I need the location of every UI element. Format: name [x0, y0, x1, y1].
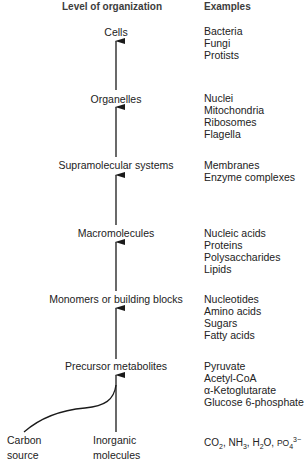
- example-item: Glucose 6-phosphate: [204, 396, 304, 408]
- example-item: Fungi: [204, 37, 243, 49]
- inorganic-examples: CO2, NH3, H2O, PO43−: [204, 437, 301, 449]
- example-item: Enzyme complexes: [204, 171, 295, 183]
- h2o: H2O: [252, 437, 271, 448]
- example-item: Proteins: [204, 239, 280, 251]
- level-organelles: Organelles: [91, 93, 142, 105]
- example-item: Mitochondria: [204, 104, 264, 116]
- level-cells: Cells: [104, 26, 127, 38]
- example-item: Nuclei: [204, 92, 264, 104]
- example-item: Acetyl-CoA: [204, 372, 304, 384]
- example-item: Bacteria: [204, 25, 243, 37]
- examples-cells: Bacteria Fungi Protists: [204, 25, 243, 61]
- example-item: Nucleic acids: [204, 227, 280, 239]
- example-item: Ribosomes: [204, 116, 264, 128]
- example-item: Lipids: [204, 263, 280, 275]
- carbon-source-curve: [24, 385, 116, 432]
- examples-precursors: Pyruvate Acetyl-CoA α-Ketoglutarate Gluc…: [204, 360, 304, 408]
- examples-organelles: Nuclei Mitochondria Ribosomes Flagella: [204, 92, 264, 140]
- level-supramolecular-systems: Supramolecular systems: [59, 159, 174, 171]
- examples-macromolecules: Nucleic acids Proteins Polysaccharides L…: [204, 227, 280, 275]
- nh3: NH3: [228, 437, 246, 448]
- example-item: Fatty acids: [204, 329, 261, 341]
- example-item: Membranes: [204, 159, 295, 171]
- inorganic-molecules-label: Inorganic molecules: [93, 433, 140, 463]
- example-item: Nucleotides: [204, 293, 261, 305]
- po4: PO43−: [277, 438, 301, 448]
- level-precursor-metabolites: Precursor metabolites: [65, 360, 167, 372]
- co2: CO2: [204, 437, 223, 448]
- example-item: Protists: [204, 49, 243, 61]
- example-item: Pyruvate: [204, 360, 304, 372]
- level-monomers: Monomers or building blocks: [49, 293, 183, 305]
- example-item: α-Ketoglutarate: [204, 384, 304, 396]
- examples-monomers: Nucleotides Amino acids Sugars Fatty aci…: [204, 293, 261, 341]
- example-item: Flagella: [204, 128, 264, 140]
- carbon-source-label: Carbon source: [7, 433, 41, 463]
- example-item: Sugars: [204, 317, 261, 329]
- level-macromolecules: Macromolecules: [78, 227, 154, 239]
- examples-supramolecular: Membranes Enzyme complexes: [204, 159, 295, 183]
- example-item: Polysaccharides: [204, 251, 280, 263]
- example-item: Amino acids: [204, 305, 261, 317]
